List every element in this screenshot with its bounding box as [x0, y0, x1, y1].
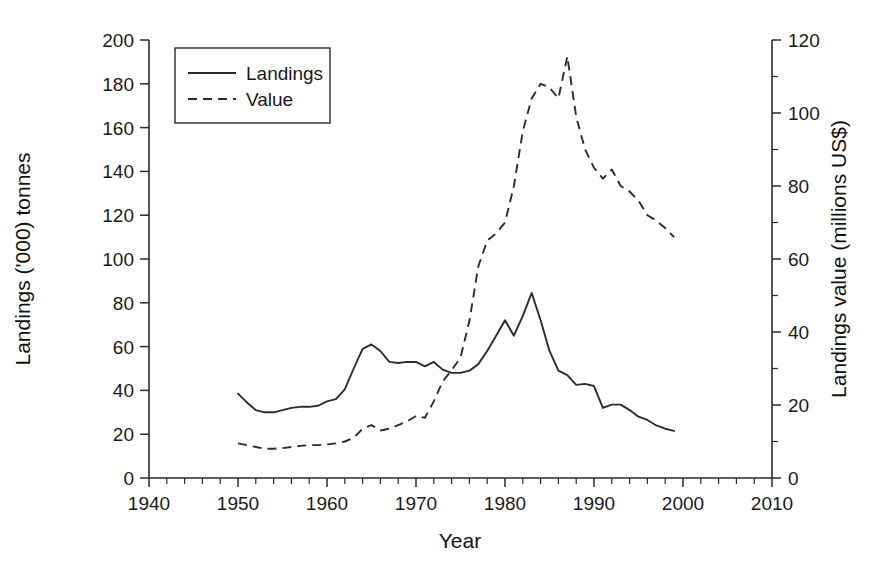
y-tick-label-left: 160: [102, 118, 134, 139]
y-tick-label-right: 80: [788, 176, 809, 197]
x-axis-ticks: [149, 478, 772, 487]
y-tick-label-right: 100: [788, 103, 820, 124]
y-tick-label-right: 120: [788, 30, 820, 51]
y-axis-left-title: Landings ('000) tonnes: [11, 153, 34, 366]
x-tick-label: 2000: [662, 493, 704, 514]
legend-border: [175, 48, 330, 123]
y-tick-label-left: 140: [102, 161, 134, 182]
y-axis-right-title: Landings value (millions US$): [827, 120, 850, 398]
x-axis-tick-labels: 19401950196019701980199020002010: [128, 493, 793, 514]
legend-label-landings: Landings: [246, 63, 323, 84]
y-tick-label-left: 60: [113, 337, 134, 358]
y-axis-left-tick-labels: 020406080100120140160180200: [102, 30, 134, 489]
x-tick-label: 1990: [573, 493, 615, 514]
line-chart-svg: 020406080100120140160180200 020406080100…: [0, 0, 869, 572]
y-axis-right-ticks: [772, 40, 781, 478]
y-tick-label-left: 20: [113, 424, 134, 445]
y-tick-label-left: 0: [123, 468, 134, 489]
y-tick-label-left: 120: [102, 205, 134, 226]
x-tick-label: 1980: [484, 493, 526, 514]
legend-label-value: Value: [246, 89, 293, 110]
x-tick-label: 1940: [128, 493, 170, 514]
chart-figure: 020406080100120140160180200 020406080100…: [0, 0, 869, 572]
series-line-landings: [238, 293, 674, 431]
y-tick-label-left: 100: [102, 249, 134, 270]
y-tick-label-right: 40: [788, 322, 809, 343]
y-tick-label-right: 0: [788, 468, 799, 489]
x-tick-label: 1950: [217, 493, 259, 514]
x-tick-label: 2010: [751, 493, 793, 514]
x-axis-title: Year: [439, 529, 481, 552]
y-tick-label-left: 40: [113, 380, 134, 401]
y-tick-label-left: 80: [113, 293, 134, 314]
y-tick-label-left: 180: [102, 74, 134, 95]
y-tick-label-right: 60: [788, 249, 809, 270]
y-axis-right-tick-labels: 020406080100120: [788, 30, 820, 489]
y-tick-label-right: 20: [788, 395, 809, 416]
chart-legend: Landings Value: [175, 48, 330, 123]
y-axis-left-ticks: [140, 40, 149, 478]
x-tick-label: 1960: [306, 493, 348, 514]
x-tick-label: 1970: [395, 493, 437, 514]
y-tick-label-left: 200: [102, 30, 134, 51]
